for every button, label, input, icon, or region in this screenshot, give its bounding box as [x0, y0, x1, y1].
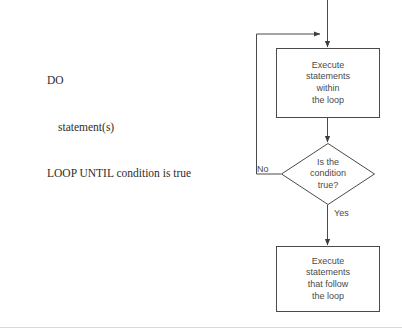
box1-line-1: Execute — [312, 60, 345, 72]
box2-line-4: the loop — [312, 291, 344, 303]
branch-label-yes: Yes — [334, 208, 349, 219]
decision-line-1: Is the — [317, 157, 339, 169]
process-box-execute-within-loop: Execute statements within the loop — [276, 48, 380, 118]
pseudocode-line-loop-until: LOOP UNTIL condition is true — [47, 166, 191, 182]
process-box-execute-follow-loop: Execute statements that follow the loop — [276, 246, 380, 312]
branch-label-no: No — [257, 164, 269, 175]
box2-line-3: that follow — [308, 279, 349, 291]
flowchart-diagram: DO statement(s) LOOP UNTIL condition is … — [0, 0, 402, 336]
pseudocode-block: DO statement(s) LOOP UNTIL condition is … — [47, 42, 191, 213]
bottom-divider — [0, 327, 402, 328]
box2-line-2: statements — [306, 267, 350, 279]
box1-line-2: statements — [306, 71, 350, 83]
pseudocode-line-statements: statement(s) — [47, 120, 191, 136]
decision-node-condition-true: Is the condition true? — [281, 143, 375, 205]
decision-line-3: true? — [318, 180, 339, 192]
box1-line-3: within — [316, 83, 339, 95]
decision-line-2: condition — [310, 168, 346, 180]
pseudocode-line-do: DO — [47, 73, 191, 89]
box2-line-1: Execute — [312, 256, 345, 268]
decision-text: Is the condition true? — [281, 143, 375, 205]
box1-line-4: the loop — [312, 95, 344, 107]
